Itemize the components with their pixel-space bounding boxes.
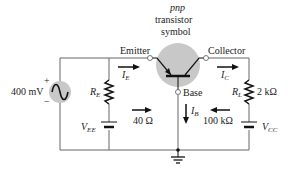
base-label: Base [183,87,203,98]
ib-arrow-icon [183,104,189,124]
circuit-diagram: + − 400 mV RE VEE pnp transistor symbol … [0,0,290,181]
input-impedance-arrow-icon [132,107,152,113]
output-impedance-arrow-icon [210,107,230,113]
collector-terminal [204,56,209,61]
emitter-label: Emitter [120,45,151,56]
ib-label: IB [190,105,199,118]
source-minus: − [44,96,50,107]
input-impedance-label: 40 Ω [133,115,153,126]
collector-label: Collector [208,45,246,56]
vee-label: VEE [81,121,96,134]
source-value: 400 mV [11,86,44,97]
rl-value: 2 kΩ [257,86,277,97]
rl-resistor-icon [245,80,253,104]
vcc-battery-icon [241,122,257,127]
ie-label: IE [121,69,130,82]
rl-label: RL [231,86,242,99]
title-line1: pnp [169,2,185,13]
ic-label: IC [220,69,229,82]
vee-battery-icon [101,122,117,127]
re-resistor-icon [105,80,113,104]
source-plus: + [44,75,50,86]
re-label: RE [89,86,101,99]
title-line2: transistor [155,14,193,25]
ac-source [49,81,71,103]
base-terminal [176,90,181,95]
emitter-terminal [148,56,153,61]
vcc-label: VCC [262,121,278,134]
title-line3: symbol [161,26,191,37]
output-impedance-label: 100 kΩ [203,115,233,126]
